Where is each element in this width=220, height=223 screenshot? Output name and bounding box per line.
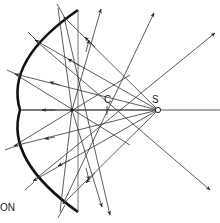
source-point bbox=[155, 107, 160, 112]
caption-fragment: ON bbox=[0, 203, 15, 213]
mirror-ray-diagram bbox=[0, 0, 220, 223]
reflected-rays bbox=[14, 13, 215, 217]
concave-mirror bbox=[17, 10, 78, 212]
source-label: S bbox=[152, 95, 159, 105]
image-point bbox=[70, 108, 74, 112]
normal-ticks bbox=[5, 4, 66, 218]
center-label: C bbox=[104, 95, 111, 105]
